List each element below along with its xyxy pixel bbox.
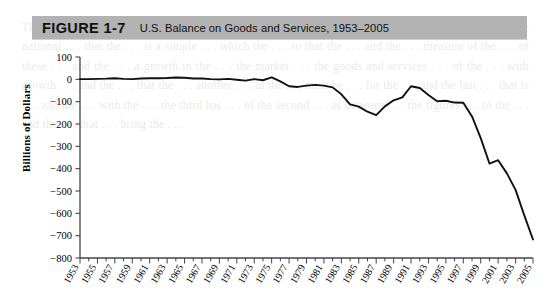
data-series-line <box>80 77 533 239</box>
data-line-layer <box>80 77 533 239</box>
x-tick-label: 1957 <box>96 263 116 286</box>
y-tick-label: −700 <box>50 230 72 241</box>
x-tick-label: 1991 <box>392 263 412 286</box>
y-tick-label: 100 <box>56 52 72 63</box>
x-tick-label: 1981 <box>305 263 325 286</box>
y-tick-label: 0 <box>67 74 72 85</box>
y-tick-label: −200 <box>50 119 72 130</box>
x-tick-label: 1977 <box>270 263 290 286</box>
x-tick-label: 1983 <box>323 263 343 286</box>
x-tick-label: 1989 <box>375 263 395 286</box>
y-tick-label: −300 <box>50 141 72 152</box>
x-tick-label: 1997 <box>445 263 465 286</box>
x-tick-label: 1965 <box>166 263 186 286</box>
x-tick-label: 2003 <box>497 263 517 286</box>
x-tick-label: 1971 <box>218 263 238 286</box>
x-tick-label: 1961 <box>131 263 151 286</box>
x-tick-label: 2005 <box>514 263 534 286</box>
x-tick-label: 1999 <box>462 263 482 286</box>
x-tick-label: 1963 <box>148 263 168 286</box>
x-tick-label: 1969 <box>201 263 221 286</box>
y-axis-title: Billions of Dollars <box>20 58 32 198</box>
x-tick-label: 1987 <box>357 263 377 286</box>
x-tick-label: 1995 <box>427 263 447 286</box>
y-tick-label: −800 <box>50 253 72 264</box>
x-axis-ticks: 1953195519571959196119631965196719691971… <box>61 258 534 285</box>
axes-layer <box>80 57 533 258</box>
x-tick-label: 1955 <box>79 263 99 286</box>
x-tick-label: 2001 <box>479 263 499 286</box>
x-tick-label: 1967 <box>183 263 203 286</box>
y-tick-label: −500 <box>50 186 72 197</box>
x-tick-label: 1975 <box>253 263 273 286</box>
line-chart-svg: 1000−100−200−300−400−500−600−700−800 195… <box>0 0 551 306</box>
x-tick-label: 1979 <box>288 263 308 286</box>
x-tick-label: 1953 <box>61 263 81 286</box>
x-tick-label: 1959 <box>113 263 133 286</box>
x-tick-label: 1973 <box>235 263 255 286</box>
chart-plot-area: Billions of Dollars 1000−100−200−300−400… <box>0 0 551 306</box>
y-tick-label: −600 <box>50 208 72 219</box>
figure-container: FIGURE 1-7 U.S. Balance on Goods and Ser… <box>0 0 551 306</box>
y-tick-label: −400 <box>50 163 72 174</box>
y-tick-label: −100 <box>50 96 72 107</box>
x-tick-label: 1993 <box>410 263 430 286</box>
y-axis-ticks: 1000−100−200−300−400−500−600−700−800 <box>50 52 80 264</box>
x-tick-label: 1985 <box>340 263 360 286</box>
